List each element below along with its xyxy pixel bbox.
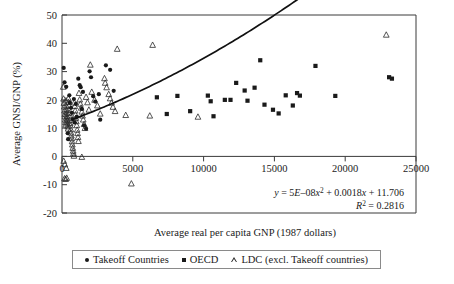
data-point-circle — [93, 99, 97, 103]
x-tick-label: 0 — [59, 163, 64, 174]
x-axis-tick-labels: 0 5000 10000 15000 20000 25000 — [59, 163, 429, 174]
data-point-triangle — [77, 97, 83, 102]
square-marker-icon — [182, 258, 186, 262]
plot-axes — [62, 15, 416, 213]
chart-legend: Takeoff Countries OECD LDC (excl. Takeof… — [72, 250, 381, 269]
data-point-square — [252, 86, 256, 90]
legend-label: Takeoff Countries — [93, 254, 169, 265]
data-point-square — [209, 99, 213, 103]
data-point-circle — [97, 92, 101, 96]
y-axis-tick-labels: 50 40 30 20 10 0 -10 -20 — [43, 10, 57, 219]
y-tick-label: 10 — [47, 123, 58, 134]
data-point-circle — [79, 85, 83, 89]
data-point-triangle — [150, 42, 156, 47]
x-axis-title: Average real per capita GNP (1987 dollar… — [154, 227, 336, 239]
data-point-triangle — [114, 46, 120, 51]
y-tick-label: 30 — [47, 66, 58, 77]
data-point-square — [262, 103, 266, 107]
data-point-circle — [104, 63, 108, 67]
data-point-circle — [67, 93, 71, 97]
legend-item-ldc: LDC (excl. Takeoff countries) — [231, 254, 368, 265]
circle-marker-icon — [85, 258, 89, 262]
data-point-square — [165, 112, 169, 116]
data-point-square — [188, 109, 192, 113]
data-point-square — [223, 98, 227, 102]
data-point-triangle — [83, 94, 89, 99]
x-tick-label: 15000 — [261, 163, 287, 174]
legend-label: LDC (excl. Takeoff countries) — [241, 254, 368, 265]
chart-figure: 50 40 30 20 10 0 -10 -20 0 5000 10000 15… — [0, 0, 454, 284]
data-point-circle — [76, 77, 80, 81]
data-point-circle — [80, 107, 84, 111]
data-point-square — [291, 103, 295, 107]
data-point-square — [245, 99, 249, 103]
y-tick-label: 40 — [47, 38, 58, 49]
data-point-circle — [112, 89, 116, 93]
data-point-circle — [66, 137, 70, 141]
data-point-triangle — [195, 114, 201, 119]
scatter-plot-canvas: 50 40 30 20 10 0 -10 -20 0 5000 10000 15… — [0, 0, 454, 284]
data-point-triangle — [97, 111, 103, 116]
data-point-square — [313, 64, 317, 68]
x-tick-label: 25000 — [403, 163, 429, 174]
data-point-circle — [108, 68, 112, 72]
data-point-triangle — [85, 99, 91, 104]
data-point-square — [284, 93, 288, 97]
data-point-circle — [72, 97, 76, 101]
x-tick-label: 5000 — [122, 163, 143, 174]
data-point-circle — [89, 75, 93, 79]
data-point-square — [390, 77, 394, 81]
data-point-circle — [70, 111, 74, 115]
data-point-square — [175, 94, 179, 98]
data-point-square — [271, 108, 275, 112]
data-point-square — [258, 58, 262, 62]
x-tick-label: 20000 — [332, 163, 358, 174]
data-point-triangle — [147, 113, 153, 118]
data-point-triangle — [123, 112, 129, 117]
data-point-circle — [69, 106, 73, 110]
data-point-circle — [91, 94, 95, 98]
data-point-triangle — [76, 90, 82, 95]
data-point-triangle — [383, 32, 389, 37]
legend-item-oecd: OECD — [182, 254, 219, 265]
regression-annotation: y = 5E–08x2 + 0.0018x + 11.706 R2 = 0.28… — [273, 186, 404, 212]
data-point-square — [211, 114, 215, 118]
series-markers-oecd — [155, 58, 394, 118]
trendline — [72, 0, 393, 120]
data-point-triangle — [89, 89, 95, 94]
legend-label: OECD — [190, 254, 219, 265]
svg-text:R2 = 0.2816: R2 = 0.2816 — [355, 199, 404, 212]
data-point-circle — [81, 90, 85, 94]
data-point-circle — [68, 101, 72, 105]
data-point-square — [298, 94, 302, 98]
data-point-square — [333, 94, 337, 98]
x-axis-internal-line — [62, 156, 416, 161]
data-point-circle — [66, 131, 70, 135]
data-point-circle — [74, 102, 78, 106]
data-point-triangle — [129, 181, 135, 186]
y-tick-label: 0 — [52, 151, 57, 162]
data-point-circle — [98, 118, 102, 122]
data-point-square — [228, 98, 232, 102]
y-tick-label: 20 — [47, 95, 58, 106]
data-point-circle — [73, 120, 77, 124]
legend-item-takeoff: Takeoff Countries — [85, 254, 169, 265]
data-point-circle — [64, 85, 68, 89]
data-point-square — [277, 111, 281, 115]
y-tick-label: 50 — [47, 10, 58, 21]
y-tick-label: -20 — [43, 208, 57, 219]
y-axis-title: Average GNSI/GNP (%) — [11, 62, 23, 166]
data-point-circle — [62, 66, 66, 70]
data-point-circle — [62, 80, 66, 84]
data-point-triangle — [86, 107, 92, 112]
data-point-square — [155, 95, 159, 99]
data-point-square — [234, 81, 238, 85]
data-point-circle — [88, 69, 92, 73]
data-point-circle — [84, 127, 88, 131]
y-tick-label: -10 — [43, 179, 57, 190]
data-point-square — [243, 88, 247, 92]
data-point-triangle — [102, 75, 108, 80]
data-point-triangle — [87, 62, 93, 67]
svg-text:y = 5E–08x2 + 0.0018x + 11.706: y = 5E–08x2 + 0.0018x + 11.706 — [273, 186, 404, 199]
x-tick-label: 10000 — [190, 163, 216, 174]
